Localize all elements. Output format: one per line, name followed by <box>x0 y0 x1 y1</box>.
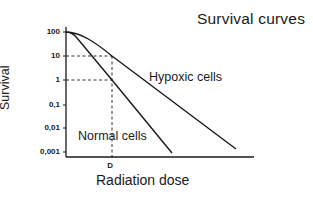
plot-area <box>0 0 313 198</box>
normal-cells-label: Normal cells <box>78 129 147 143</box>
hypoxic-cells-label: Hypoxic cells <box>149 70 222 84</box>
